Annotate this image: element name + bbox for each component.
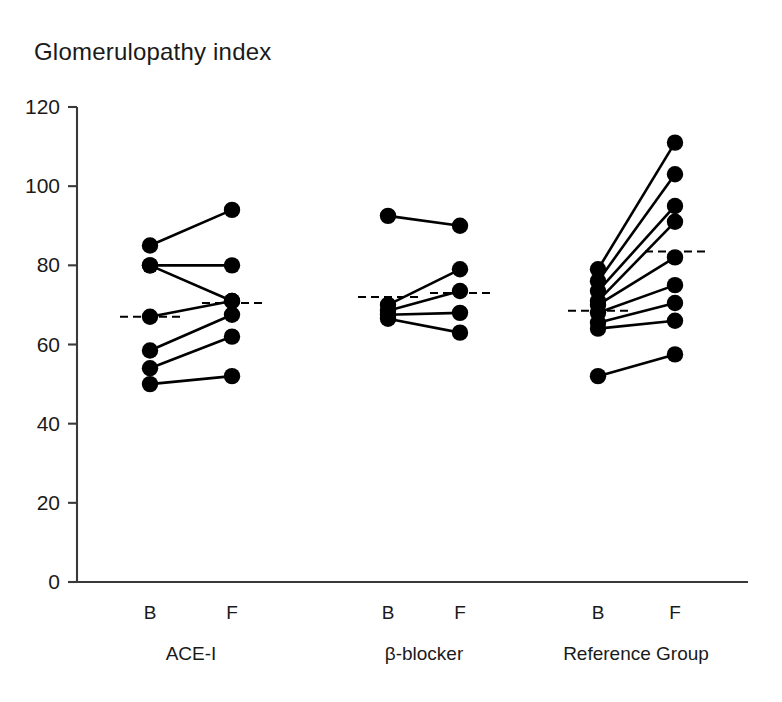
data-point	[667, 313, 683, 329]
pair-connector-line	[598, 354, 675, 376]
data-point	[142, 237, 158, 253]
pair-connector-line	[150, 210, 232, 246]
axis-label-layer: BFACE-IBFβ-blockerBFReference Group	[144, 602, 709, 664]
data-point	[452, 261, 468, 277]
data-point	[667, 134, 683, 150]
pair-connector-line	[388, 216, 460, 226]
pair-connector-line	[388, 313, 460, 315]
data-point	[142, 309, 158, 325]
data-point	[380, 311, 396, 327]
pair-connector-line	[388, 269, 460, 305]
group-series-1	[120, 202, 262, 393]
data-point	[667, 214, 683, 230]
pair-connector-line	[150, 376, 232, 384]
x-axis-timepoint-label-f: F	[454, 602, 466, 623]
data-point	[590, 320, 606, 336]
x-axis-group-label: ACE-I	[166, 643, 217, 664]
pair-connector-line	[598, 321, 675, 329]
figure-canvas: Glomerulopathy index 020406080100120 BFA…	[0, 0, 782, 702]
series-layer	[120, 134, 705, 392]
data-point	[380, 208, 396, 224]
x-axis-timepoint-label-f: F	[226, 602, 238, 623]
x-axis-group-label: Reference Group	[563, 643, 709, 664]
data-point	[224, 202, 240, 218]
y-axis-tick-label: 20	[37, 491, 60, 514]
data-point	[142, 376, 158, 392]
pair-connector-line	[598, 303, 675, 323]
data-point	[452, 305, 468, 321]
group-series-3	[568, 134, 705, 384]
pair-connector-line	[150, 337, 232, 369]
axis-spine	[77, 107, 748, 582]
data-point	[224, 328, 240, 344]
data-point	[452, 218, 468, 234]
pair-connector-line	[150, 315, 232, 351]
data-point	[667, 277, 683, 293]
scatter-plot: 020406080100120 BFACE-IBFβ-blockerBFRefe…	[0, 0, 782, 702]
data-point	[667, 198, 683, 214]
x-axis-group-label: β-blocker	[385, 643, 464, 664]
data-point	[667, 166, 683, 182]
y-axis-tick-label: 100	[25, 174, 60, 197]
y-axis-tick-label: 60	[37, 333, 60, 356]
data-point	[224, 257, 240, 273]
data-point	[667, 346, 683, 362]
y-axis-tick-label: 40	[37, 412, 60, 435]
y-axis-tick-label: 80	[37, 253, 60, 276]
data-point	[142, 360, 158, 376]
pair-connector-line	[388, 319, 460, 333]
data-point	[224, 368, 240, 384]
data-point	[667, 249, 683, 265]
x-axis-timepoint-label-f: F	[669, 602, 681, 623]
axis-layer: 020406080100120	[25, 95, 748, 593]
data-point	[667, 295, 683, 311]
data-point	[142, 257, 158, 273]
pair-connector-line	[150, 265, 232, 301]
group-series-2	[358, 208, 490, 341]
x-axis-timepoint-label-b: B	[382, 602, 395, 623]
data-point	[142, 342, 158, 358]
x-axis-timepoint-label-b: B	[592, 602, 605, 623]
data-point	[452, 324, 468, 340]
x-axis-timepoint-label-b: B	[144, 602, 157, 623]
y-axis-tick-label: 0	[48, 570, 60, 593]
data-point	[452, 283, 468, 299]
y-axis-tick-label: 120	[25, 95, 60, 118]
data-point	[590, 368, 606, 384]
data-point	[224, 307, 240, 323]
